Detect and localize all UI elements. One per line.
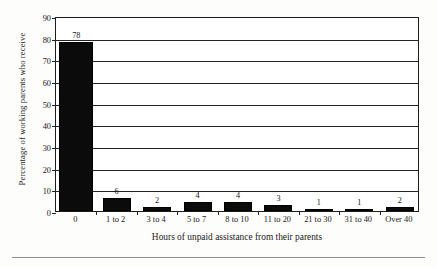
bar — [59, 42, 93, 211]
x-tick-label: 3 to 4 — [147, 215, 166, 224]
y-tick-label: 60 — [43, 79, 51, 88]
bar — [224, 202, 252, 211]
x-tick-label: 5 to 7 — [187, 215, 206, 224]
x-tick-label: Over 40 — [385, 215, 412, 224]
bar-slot: 4 — [177, 18, 217, 211]
bar-value-label: 2 — [155, 196, 159, 205]
bar — [345, 209, 373, 212]
plot-area: 0102030405060708090 7862443112 — [55, 17, 419, 212]
x-tick-mark — [137, 211, 138, 215]
bar — [305, 209, 333, 212]
x-tick-label: 8 to 10 — [225, 215, 248, 224]
x-tick-label: 0 — [73, 215, 77, 224]
x-axis-title: Hours of unpaid assistance from their pa… — [55, 232, 419, 242]
x-tick-label: 1 to 2 — [106, 215, 125, 224]
bar-value-label: 78 — [72, 31, 80, 40]
bar-slot: 1 — [339, 18, 379, 211]
y-axis-title: Percentage of working parents who receiv… — [17, 9, 27, 209]
y-tick-label: 20 — [43, 165, 51, 174]
x-tick-label: 21 to 30 — [304, 215, 331, 224]
bar-slot: 2 — [137, 18, 177, 211]
bar-value-label: 4 — [196, 191, 200, 200]
bar-value-label: 4 — [236, 191, 240, 200]
x-tick-mark — [258, 211, 259, 215]
bar-slot: 3 — [258, 18, 298, 211]
x-tick-mark — [380, 211, 381, 215]
y-tick-label: 30 — [43, 144, 51, 153]
y-tick-label: 50 — [43, 100, 51, 109]
bar-value-label: 1 — [317, 198, 321, 207]
bar-slot: 1 — [299, 18, 339, 211]
y-tick-label: 80 — [43, 35, 51, 44]
x-tick-mark — [339, 211, 340, 215]
bar — [103, 198, 131, 211]
y-tick-label: 10 — [43, 187, 51, 196]
bar — [264, 205, 292, 212]
y-tick-label: 40 — [43, 122, 51, 131]
bar-slot: 78 — [56, 18, 96, 211]
x-tick-mark — [218, 211, 219, 215]
chart-figure: Percentage of working parents who receiv… — [0, 0, 437, 267]
x-tick-label: 11 to 20 — [264, 215, 291, 224]
y-tick-mark — [52, 213, 56, 214]
bottom-divider — [12, 257, 425, 258]
x-tick-mark — [177, 211, 178, 215]
bar — [143, 207, 171, 211]
bar-slot: 6 — [96, 18, 136, 211]
bar-value-label: 3 — [276, 194, 280, 203]
y-tick-label: 70 — [43, 57, 51, 66]
y-tick-label: 0 — [47, 209, 51, 218]
x-tick-mark — [96, 211, 97, 215]
bar-series: 7862443112 — [56, 18, 418, 211]
y-tick-label: 90 — [43, 14, 51, 23]
bar-value-label: 6 — [115, 187, 119, 196]
bar — [184, 202, 212, 211]
x-tick-mark — [299, 211, 300, 215]
bar-slot: 2 — [380, 18, 420, 211]
bar-slot: 4 — [218, 18, 258, 211]
bar-value-label: 1 — [357, 198, 361, 207]
bar — [386, 207, 414, 211]
bar-value-label: 2 — [398, 196, 402, 205]
x-tick-label: 31 to 40 — [345, 215, 372, 224]
